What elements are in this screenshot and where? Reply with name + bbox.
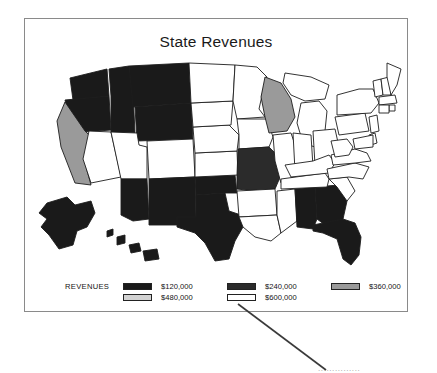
legend-value-600000: $600,000 (265, 293, 297, 302)
state-MS (277, 189, 297, 233)
state-MT (129, 63, 191, 107)
state-AR (237, 189, 277, 217)
state-HI-4 (143, 249, 159, 261)
state-AZ (121, 179, 149, 221)
solid-black-swatch (123, 283, 152, 290)
state-WV (331, 139, 353, 157)
legend-entry-120000[interactable]: $120,000 (123, 282, 227, 291)
legend-entry-360000[interactable]: $360,000 (331, 282, 435, 291)
legend-entry-480000[interactable]: $480,000 (123, 293, 227, 302)
legend-entry-240000[interactable]: $240,000 (227, 282, 331, 291)
state-CO (147, 139, 195, 179)
legend-row-top: REVENUES $120,000 $240,000 $360,000 (25, 281, 407, 292)
state-PA (335, 113, 369, 135)
state-WY (135, 103, 193, 141)
state-RI (389, 105, 395, 111)
state-SD (191, 101, 233, 127)
dark-hatch-swatch (227, 283, 256, 290)
legend-value-120000: $120,000 (161, 282, 193, 291)
state-KS (195, 151, 238, 177)
map-legend: REVENUES $120,000 $240,000 $360,000 $480… (25, 281, 407, 303)
legend-entry-600000[interactable]: $600,000 (227, 293, 331, 302)
map-figure-frame: State Revenues (24, 18, 408, 312)
legend-value-240000: $240,000 (265, 282, 297, 291)
state-NY (337, 89, 379, 115)
state-MA (379, 95, 397, 105)
light-gray-swatch (123, 294, 152, 301)
clipped-annotation-text: ............... (318, 364, 436, 373)
state-HI-3 (129, 243, 141, 253)
state-HI-2 (117, 235, 125, 245)
state-AK (39, 197, 95, 249)
state-MD (353, 135, 373, 149)
state-LA (239, 215, 281, 241)
legend-value-480000: $480,000 (161, 293, 193, 302)
leader-line-stroke (238, 304, 326, 370)
white-swatch (227, 294, 256, 301)
state-NJ (369, 115, 379, 133)
state-WA (70, 69, 109, 100)
legend-title: REVENUES (65, 282, 123, 291)
legend-value-360000: $360,000 (369, 282, 401, 291)
medium-gray-swatch (331, 283, 360, 290)
state-AL (295, 187, 317, 229)
state-CT (379, 105, 389, 113)
state-NE (193, 125, 239, 153)
legend-row-bottom: $480,000 $600,000 (25, 292, 407, 303)
state-OK (195, 175, 237, 195)
page-title: State Revenues (25, 33, 407, 51)
state-FL (313, 219, 361, 265)
map-svg (29, 55, 405, 275)
state-ND (189, 63, 235, 103)
state-HI-1 (107, 229, 113, 237)
us-choropleth-map (29, 55, 405, 275)
